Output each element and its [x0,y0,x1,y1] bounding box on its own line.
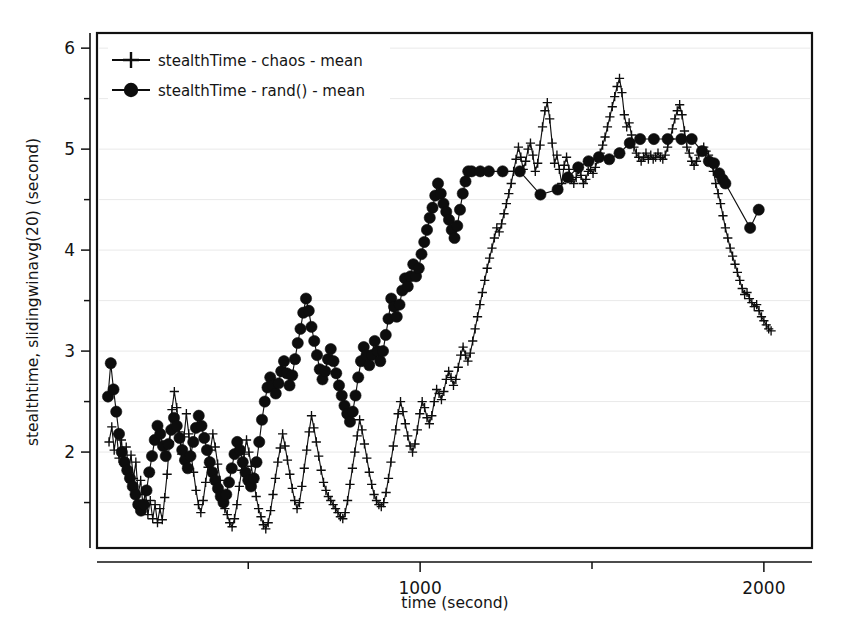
data-point-marker [344,416,355,427]
data-point-marker [696,146,707,157]
x-axis-title: time (second) [401,594,508,612]
data-point-marker [413,263,424,274]
data-point-marker [182,463,193,474]
data-point-marker [336,390,347,401]
data-point-marker [325,343,336,354]
data-point-marker [223,477,234,488]
data-point-marker [111,406,122,417]
legend-entry-label: stealthTime - rand() - mean [158,82,365,100]
data-point-marker [753,204,764,215]
data-point-marker [483,166,494,177]
data-point-marker [144,467,155,478]
data-point-marker [535,189,546,200]
data-point-marker [432,178,443,189]
data-point-marker [427,202,438,213]
data-point-marker [328,356,339,367]
data-point-marker [248,473,259,484]
data-point-marker [226,463,237,474]
data-point-marker [624,137,635,148]
data-point-marker [562,172,573,183]
data-point-marker [188,436,199,447]
legend-entry-label: stealthTime - chaos - mean [158,52,363,70]
data-point-marker [141,485,152,496]
data-point-marker [163,438,174,449]
data-point-marker [424,212,435,223]
data-point-marker [273,378,284,389]
data-point-marker [333,380,344,391]
data-point-marker [171,420,182,431]
data-point-marker [155,428,166,439]
data-point-marker [662,133,673,144]
data-point-marker [583,156,594,167]
data-point-marker [331,368,342,379]
data-point-marker [593,152,604,163]
data-point-marker [284,380,295,391]
data-point-marker [416,249,427,260]
y-axis-tick-label: 6 [64,38,75,58]
data-point-marker [196,420,207,431]
false [124,83,138,97]
data-point-marker [377,345,388,356]
data-point-marker [295,323,306,334]
data-point-marker [174,432,185,443]
data-point-marker [311,350,322,361]
data-point-marker [708,158,719,169]
data-point-marker [454,204,465,215]
data-point-marker [251,457,262,468]
y-axis-title: stealthtime, slidingwinavg(20) (second) [24,138,42,446]
data-point-marker [552,184,563,195]
data-point-marker [686,133,697,144]
data-point-marker [369,335,380,346]
data-point-marker [303,305,314,316]
data-point-marker [221,489,232,500]
data-point-marker [292,337,303,348]
data-point-marker [201,444,212,455]
data-point-marker [254,436,265,447]
data-point-marker [138,499,149,510]
data-point-marker [185,451,196,462]
data-point-marker [193,410,204,421]
data-point-marker [720,178,731,189]
data-point-marker [457,188,468,199]
data-point-marker [394,299,405,310]
data-point-marker [199,432,210,443]
data-point-marker [419,236,430,247]
y-axis-tick-label: 5 [64,139,75,159]
data-point-marker [648,133,659,144]
y-axis-tick-label: 3 [64,341,75,361]
data-point-marker [259,396,270,407]
data-point-marker [350,390,361,401]
data-point-marker [514,166,525,177]
data-point-marker [391,311,402,322]
data-point-marker [604,154,615,165]
data-point-marker [105,358,116,369]
data-point-marker [113,428,124,439]
data-point-marker [460,176,471,187]
y-axis-tick-label: 2 [64,442,75,462]
data-point-marker [309,335,320,346]
data-point-marker [421,224,432,235]
data-point-marker [452,220,463,231]
chart-figure: 23456 10002000 stealthTime - chaos - mea… [0,0,854,642]
data-point-marker [130,489,141,500]
data-point-marker [306,321,317,332]
data-point-marker [745,222,756,233]
data-point-marker [234,444,245,455]
data-point-marker [116,446,127,457]
data-point-marker [108,384,119,395]
data-point-marker [614,148,625,159]
data-point-marker [353,372,364,383]
data-point-marker [237,457,248,468]
data-point-marker [364,360,375,371]
data-point-marker [347,406,358,417]
y-axis-tick-label: 4 [64,240,75,260]
data-point-marker [300,293,311,304]
data-point-marker [289,354,300,365]
data-point-marker [449,232,460,243]
data-point-marker [676,133,687,144]
chart-legend[interactable]: stealthTime - chaos - meanstealthTime - … [108,42,390,104]
data-point-marker [402,281,413,292]
chart-svg: 23456 10002000 stealthTime - chaos - mea… [0,0,854,642]
data-point-marker [287,370,298,381]
data-point-marker [320,366,331,377]
